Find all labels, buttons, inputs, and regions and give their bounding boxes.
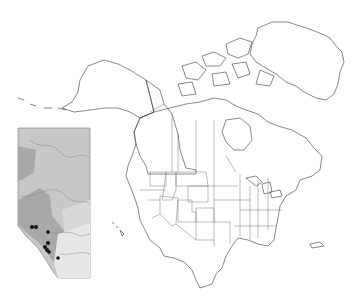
arctic-islands xyxy=(178,38,274,96)
greenland xyxy=(250,22,344,100)
north-america-map xyxy=(0,0,356,298)
hudson-bay xyxy=(222,118,252,150)
province-borders xyxy=(150,104,236,172)
aleutian-islands xyxy=(18,98,66,110)
hawaii xyxy=(112,222,124,236)
alberta-inset xyxy=(18,128,90,278)
caribbean-islands xyxy=(310,242,324,248)
alaska-range xyxy=(62,60,154,118)
utah-range xyxy=(178,200,196,222)
great-lakes xyxy=(246,176,282,198)
wyoming-range xyxy=(188,186,208,202)
colorado-range xyxy=(196,208,214,222)
nevada-range xyxy=(160,196,178,226)
yukon-bc-alberta-range xyxy=(134,80,196,174)
